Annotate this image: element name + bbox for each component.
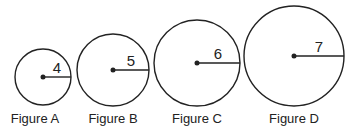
center-dot-c	[195, 61, 200, 66]
radius-label-d: 7	[315, 38, 323, 55]
radius-label-a: 4	[53, 59, 61, 76]
figure-d: 7 Figure D	[244, 6, 344, 126]
center-dot-d	[292, 54, 297, 59]
figure-label-d: Figure D	[269, 111, 319, 126]
radius-label-c: 6	[214, 45, 222, 62]
figure-c: 6 Figure C	[154, 20, 240, 126]
figure-label-a: Figure A	[11, 111, 60, 126]
figure-label-c: Figure C	[172, 111, 222, 126]
radius-label-b: 5	[127, 52, 135, 69]
circles-diagram: 4 Figure A 5 Figure B 6 Figure C 7 Figur…	[0, 0, 352, 128]
figure-a: 4 Figure A	[11, 49, 71, 126]
figure-label-b: Figure B	[88, 111, 137, 126]
center-dot-a	[41, 75, 46, 80]
center-dot-b	[111, 68, 116, 73]
figure-b: 5 Figure B	[77, 34, 149, 126]
